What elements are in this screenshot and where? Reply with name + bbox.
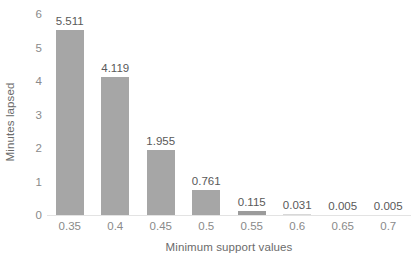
bar-value-label: 0.005 bbox=[328, 200, 357, 212]
bar-value-label: 0.005 bbox=[374, 200, 403, 212]
y-tick-label: 1 bbox=[24, 176, 42, 188]
y-axis-tick-labels: 0123456 bbox=[18, 0, 42, 267]
x-axis-line bbox=[47, 215, 411, 216]
bar-group[interactable]: 0.005 bbox=[320, 14, 366, 215]
bar-value-label: 0.031 bbox=[283, 199, 312, 211]
x-tick-label: 0.6 bbox=[275, 219, 321, 233]
y-axis-title: Minutes lapsed bbox=[4, 62, 16, 182]
x-tick-label: 0.45 bbox=[138, 219, 184, 233]
bar-chart: Minutes lapsed 0123456 5.5114.1191.9550.… bbox=[0, 0, 420, 267]
y-tick-label: 5 bbox=[24, 42, 42, 54]
bar-group[interactable]: 5.511 bbox=[47, 14, 93, 215]
x-tick-label: 0.5 bbox=[184, 219, 230, 233]
y-tick-label: 2 bbox=[24, 142, 42, 154]
x-tick-label: 0.65 bbox=[320, 219, 366, 233]
bar-value-label: 5.511 bbox=[56, 15, 84, 27]
plot-area: 5.5114.1191.9550.7610.1150.0310.0050.005 bbox=[47, 14, 411, 215]
x-tick-label: 0.55 bbox=[229, 219, 275, 233]
bar[interactable] bbox=[101, 77, 129, 215]
bar[interactable] bbox=[56, 30, 84, 215]
bar-value-label: 0.115 bbox=[238, 196, 266, 208]
x-axis-tick-labels: 0.350.40.450.50.550.60.650.7 bbox=[47, 219, 411, 235]
y-tick-label: 3 bbox=[24, 109, 42, 121]
bar[interactable] bbox=[238, 211, 266, 215]
x-tick-label: 0.7 bbox=[366, 219, 412, 233]
bar[interactable] bbox=[374, 214, 402, 215]
bar-value-label: 0.761 bbox=[192, 175, 221, 187]
bar-group[interactable]: 4.119 bbox=[93, 14, 139, 215]
bar[interactable] bbox=[329, 214, 357, 215]
y-tick-label: 4 bbox=[24, 75, 42, 87]
bar[interactable] bbox=[283, 214, 311, 215]
bar-value-label: 1.955 bbox=[146, 135, 175, 147]
bar-group[interactable]: 0.031 bbox=[275, 14, 321, 215]
bar-group[interactable]: 0.761 bbox=[184, 14, 230, 215]
bar[interactable] bbox=[192, 190, 220, 215]
bar-group[interactable]: 0.005 bbox=[366, 14, 412, 215]
bar[interactable] bbox=[147, 150, 175, 215]
bar-value-label: 4.119 bbox=[101, 62, 129, 74]
x-axis-title: Minimum support values bbox=[47, 241, 411, 253]
bar-group[interactable]: 1.955 bbox=[138, 14, 184, 215]
y-tick-label: 0 bbox=[24, 209, 42, 221]
y-tick-label: 6 bbox=[24, 8, 42, 20]
x-tick-label: 0.35 bbox=[47, 219, 93, 233]
x-tick-label: 0.4 bbox=[93, 219, 139, 233]
bar-group[interactable]: 0.115 bbox=[229, 14, 275, 215]
